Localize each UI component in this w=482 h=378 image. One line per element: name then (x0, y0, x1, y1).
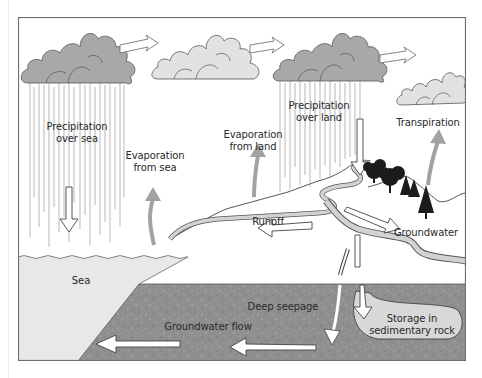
label-line: over land (280, 112, 358, 124)
label-transpiration: Transpiration (388, 117, 468, 129)
label-sea: Sea (66, 275, 96, 287)
label-groundwater: Groundwater (386, 227, 466, 239)
label-line: Precipitation (280, 100, 358, 112)
label-line: Storage in (366, 313, 458, 325)
label-line: Precipitation (32, 121, 122, 133)
label-evaporation-from-land: Evaporation from land (218, 129, 288, 153)
label-evaporation-from-sea: Evaporation from sea (120, 150, 190, 174)
label-line: Evaporation (120, 150, 190, 162)
label-storage-in-sedimentary-rock: Storage in sedimentary rock (366, 313, 458, 337)
label-deep-seepage: Deep seepage (243, 301, 323, 313)
label-line: from land (218, 141, 288, 153)
page-margin-rule (8, 0, 9, 378)
label-groundwater-flow: Groundwater flow (158, 321, 258, 333)
label-line: sedimentary rock (366, 325, 458, 337)
label-runoff: Runoff (248, 216, 288, 228)
label-precipitation-over-sea: Precipitation over sea (32, 121, 122, 145)
label-line: from sea (120, 162, 190, 174)
label-precipitation-over-land: Precipitation over land (280, 100, 358, 124)
water-cycle-diagram: Precipitation over sea Evaporation from … (18, 17, 466, 361)
label-line: Evaporation (218, 129, 288, 141)
label-line: over sea (32, 133, 122, 145)
